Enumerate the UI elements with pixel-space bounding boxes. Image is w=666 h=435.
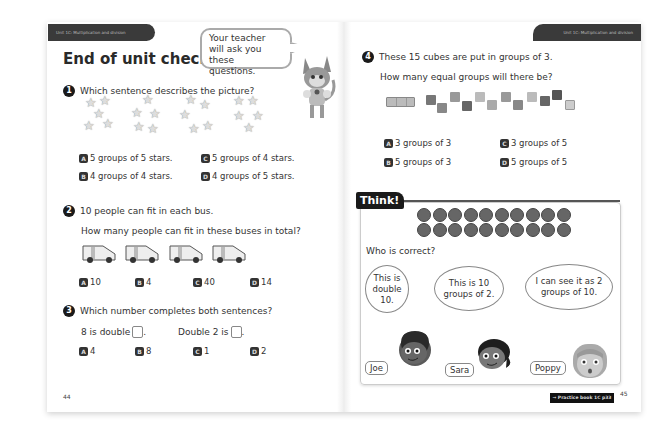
think-divider xyxy=(402,200,620,202)
counter-dot xyxy=(417,208,431,222)
sara-name-tag: Sara xyxy=(445,363,474,377)
cat-mascot-icon xyxy=(297,50,337,122)
sentence-2: Double 2 is. xyxy=(178,326,244,338)
question-number-3: 3 xyxy=(63,305,75,317)
counter-dot xyxy=(433,223,447,237)
counter-dot xyxy=(557,208,571,222)
question-4-subtext: How many equal groups will there be? xyxy=(380,72,553,82)
counter-dot xyxy=(448,208,462,222)
textbook-spread: Unit 1C: Multiplication and division End… xyxy=(47,22,641,412)
joe-name-tag: Joe xyxy=(365,361,388,375)
page-number-right: 45 xyxy=(620,390,628,397)
page-title: End of unit check xyxy=(63,50,209,68)
bus-icon xyxy=(168,244,206,264)
counter-dot xyxy=(526,223,540,237)
q3-option-a[interactable]: A4 xyxy=(79,346,95,356)
q4-option-c[interactable]: C3 groups of 5 xyxy=(500,138,567,148)
think-question: Who is correct? xyxy=(366,246,435,256)
question-4-text: These 15 cubes are put in groups of 3. xyxy=(379,52,553,62)
question-number-1: 1 xyxy=(63,85,75,97)
unit-header-right: Unit 1C: Multiplication and division xyxy=(533,24,641,41)
counter-dot xyxy=(464,223,478,237)
q3-option-b[interactable]: B8 xyxy=(135,346,151,356)
sara-speech-bubble: This is 10 groups of 2. xyxy=(434,266,504,311)
question-number-2: 2 xyxy=(63,205,75,217)
answer-box-2[interactable] xyxy=(231,326,242,338)
q4-option-d[interactable]: D5 groups of 5 xyxy=(500,157,567,167)
q2-option-d[interactable]: D14 xyxy=(250,277,272,287)
counter-dot xyxy=(464,208,478,222)
bus-icon xyxy=(81,244,119,264)
q4-option-b[interactable]: B5 groups of 3 xyxy=(384,157,451,167)
q2-option-a[interactable]: A10 xyxy=(79,277,101,287)
answer-box-1[interactable] xyxy=(132,326,143,338)
poppy-avatar-icon xyxy=(569,340,611,382)
counter-dot xyxy=(495,208,509,222)
q2-option-b[interactable]: B4 xyxy=(135,277,151,287)
q3-option-c[interactable]: C1 xyxy=(193,346,209,356)
question-number-4: 4 xyxy=(362,51,374,63)
counter-dot xyxy=(448,223,462,237)
bus-icon xyxy=(124,244,162,264)
poppy-name-tag: Poppy xyxy=(530,361,566,375)
counter-dot xyxy=(510,223,524,237)
counter-dot xyxy=(541,208,555,222)
counter-dot xyxy=(526,208,540,222)
q3-option-d[interactable]: D2 xyxy=(250,346,266,356)
joe-speech-bubble: This is double 10. xyxy=(365,265,409,313)
think-label: Think! xyxy=(356,192,404,209)
bus-icon xyxy=(211,244,249,264)
teacher-speech-bubble: Your teacher will ask you these question… xyxy=(200,28,292,69)
q2-option-c[interactable]: C40 xyxy=(193,277,215,287)
q1-option-c[interactable]: C5 groups of 4 stars. xyxy=(201,153,295,163)
counter-dot xyxy=(541,223,555,237)
right-page: Unit 1C: Multiplication and division 4Th… xyxy=(344,22,641,412)
poppy-speech-bubble: I can see it as 2 groups of 10. xyxy=(525,264,613,310)
q1-option-d[interactable]: D4 groups of 5 stars. xyxy=(201,171,295,181)
q1-option-a[interactable]: A5 groups of 5 stars. xyxy=(79,153,173,163)
joe-avatar-icon xyxy=(396,331,434,367)
left-page: Unit 1C: Multiplication and division End… xyxy=(47,22,344,412)
counter-dot xyxy=(433,208,447,222)
question-2: 210 people can fit in each bus. xyxy=(63,205,213,217)
question-4: 4These 15 cubes are put in groups of 3. xyxy=(362,51,553,63)
sara-avatar-icon xyxy=(474,336,514,372)
unit-header-left: Unit 1C: Multiplication and division xyxy=(48,24,155,41)
counter-dot xyxy=(510,208,524,222)
question-2-subtext: How many people can fit in these buses i… xyxy=(81,226,301,236)
q4-option-a[interactable]: A3 groups of 3 xyxy=(384,138,451,148)
counter-dot xyxy=(417,223,431,237)
practice-book-link[interactable]: → Practice book 1C p33 xyxy=(550,393,614,403)
counter-dot xyxy=(479,223,493,237)
question-2-text: 10 people can fit in each bus. xyxy=(80,206,213,216)
counter-dot xyxy=(557,223,571,237)
question-3: 3Which number completes both sentences? xyxy=(63,305,272,317)
counter-dot xyxy=(479,208,493,222)
question-3-text: Which number completes both sentences? xyxy=(80,306,272,316)
counter-dot xyxy=(495,223,509,237)
sentence-1: 8 is double. xyxy=(81,326,146,338)
page-number-left: 44 xyxy=(63,393,71,400)
q1-option-b[interactable]: B4 groups of 4 stars. xyxy=(79,171,173,181)
